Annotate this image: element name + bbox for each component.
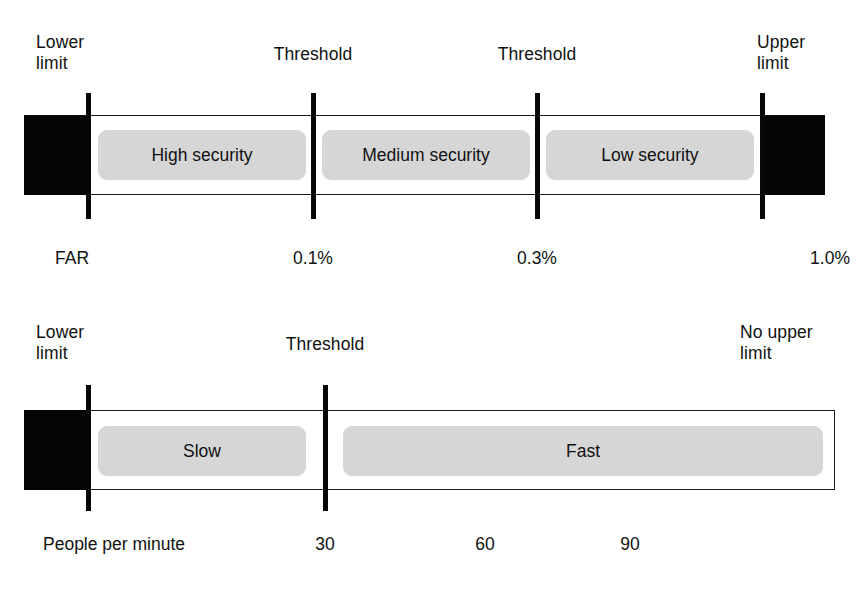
panel2-lower-limit-tick — [86, 385, 91, 511]
panel1-band-high-security-label: High security — [151, 145, 252, 166]
panel1-lower-limit-tick — [86, 93, 91, 219]
panel2-no-upper-limit-label: No upper limit — [740, 322, 868, 364]
panel2-band-fast: Fast — [343, 426, 823, 476]
panel1-band-low-security-label: Low security — [601, 145, 698, 166]
panel1-lower-limit-label: Lower limit — [36, 32, 156, 74]
panel1-threshold-2-tick — [535, 93, 540, 219]
panel1-band-low-security: Low security — [546, 130, 754, 180]
panel1-axis-name: FAR — [55, 248, 205, 268]
panel1-band-high-security: High security — [98, 130, 306, 180]
panel2-tick-label-90: 90 — [570, 534, 690, 554]
panel2-tick-label-30: 30 — [265, 534, 385, 554]
panel2-tick-label-60: 60 — [425, 534, 545, 554]
panel1-tick-label-0-1: 0.1% — [253, 248, 373, 268]
panel2-band-fast-label: Fast — [566, 441, 600, 462]
panel1-threshold-1-tick — [311, 93, 316, 219]
panel1-upper-limit-label: Upper limit — [757, 32, 868, 74]
panel1-above-upper-limit-block — [762, 115, 825, 195]
far-scale-panel: Lower limit Threshold Threshold Upper li… — [0, 0, 868, 290]
panel1-band-medium-security: Medium security — [322, 130, 530, 180]
panel1-below-lower-limit-block — [24, 115, 89, 195]
panel1-band-medium-security-label: Medium security — [362, 145, 489, 166]
panel2-band-slow: Slow — [98, 426, 306, 476]
throughput-scale-panel: Lower limit Threshold No upper limit Slo… — [0, 300, 868, 597]
panel2-threshold-tick — [323, 385, 328, 511]
panel2-axis-name: People per minute — [43, 534, 273, 554]
panel1-tick-label-1-0: 1.0% — [730, 248, 850, 268]
panel2-below-lower-limit-block — [24, 410, 89, 490]
panel1-upper-limit-tick — [760, 93, 765, 219]
panel1-threshold-1-label: Threshold — [243, 44, 383, 65]
biometric-scales-figure: Lower limit Threshold Threshold Upper li… — [0, 0, 868, 597]
panel2-threshold-label: Threshold — [255, 334, 395, 355]
panel1-threshold-2-label: Threshold — [467, 44, 607, 65]
panel2-lower-limit-label: Lower limit — [36, 322, 156, 364]
panel1-tick-label-0-3: 0.3% — [477, 248, 597, 268]
panel2-band-slow-label: Slow — [183, 441, 221, 462]
